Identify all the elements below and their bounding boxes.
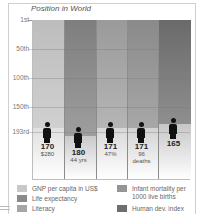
y-label-1st: 1st xyxy=(20,16,29,23)
legend-swatch xyxy=(17,205,27,212)
y-label-100th: 100th xyxy=(13,74,29,81)
person-icon xyxy=(42,122,52,143)
sub-value-literacy: 47% xyxy=(95,151,126,158)
person-icon xyxy=(105,122,115,143)
legend-swatch xyxy=(117,185,127,192)
legend-item-literacy: Literacy xyxy=(17,205,55,213)
gridline-150th xyxy=(28,107,190,108)
gridline-50th xyxy=(28,49,190,50)
column-human-dev-index xyxy=(159,20,191,179)
legend-swatch xyxy=(17,195,27,202)
sub-value-infant-mortality: 96 xyxy=(126,151,157,158)
sub-value-infant-mortality-unit: deaths xyxy=(126,158,157,165)
legend-item-life-expectancy: Life expectancy xyxy=(17,195,77,203)
legend-swatch xyxy=(117,205,127,212)
person-icon xyxy=(168,118,178,139)
rank-value-human-dev-index: 165 xyxy=(158,139,189,148)
sub-value-life-expectancy: 44 yrs xyxy=(63,157,94,164)
connector-line xyxy=(0,206,10,207)
y-label-150th: 150th xyxy=(13,103,29,110)
person-icon xyxy=(136,122,146,143)
connector-line xyxy=(0,209,10,210)
chart-title: Position in World xyxy=(31,4,91,13)
y-label-193rd: 193rd xyxy=(12,128,29,135)
gridline-100th xyxy=(28,78,190,79)
rank-value-gnp: 170 xyxy=(32,142,63,151)
rank-value-infant-mortality: 171 xyxy=(126,142,157,151)
y-label-50th: 50th xyxy=(16,45,29,52)
person-icon xyxy=(73,127,83,148)
sub-value-gnp: $280 xyxy=(32,151,63,158)
legend-item-gnp: GNP per capita in US$ xyxy=(17,185,98,193)
legend-item-human-dev-index: Human dev. index xyxy=(117,205,184,213)
legend-item-infant-mortality: Infant mortality per1000 live births xyxy=(117,185,186,201)
rank-value-life-expectancy: 180 xyxy=(63,148,94,157)
legend-swatch xyxy=(17,185,27,192)
rank-value-literacy: 171 xyxy=(95,142,126,151)
